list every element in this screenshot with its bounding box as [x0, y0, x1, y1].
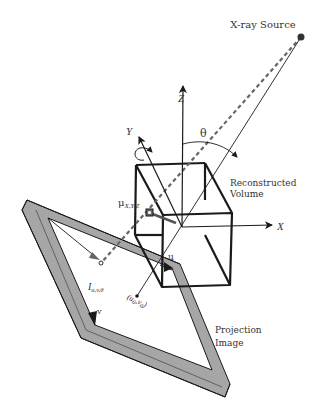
projection-image-label-1: Projection	[215, 325, 262, 335]
u-axis-label: u	[168, 252, 174, 262]
z-axis	[182, 86, 183, 227]
axis-z-label: Z	[178, 92, 185, 104]
theta-arc	[183, 142, 237, 157]
projection-ray-dashed	[101, 37, 301, 263]
axis-x-label: X	[276, 220, 285, 232]
xray-source-label: X-ray Source	[230, 19, 295, 30]
central-ray	[137, 37, 301, 296]
reconstructed-volume-label-1: Reconstructed	[230, 178, 297, 188]
detector-pixel-dot	[99, 261, 103, 265]
theta-label: θ	[200, 127, 207, 140]
xray-source-dot	[298, 34, 305, 41]
v-axis-label: v	[96, 307, 102, 316]
reconstructed-volume-label-2: Volume	[229, 189, 264, 199]
ct-geometry-diagram: X-ray Source Z Y X θ Reconstructed Volum…	[0, 0, 332, 410]
axis-y-label: Y	[126, 125, 134, 137]
projection-image-label-2: Image	[215, 338, 244, 348]
x-axis	[182, 225, 272, 227]
